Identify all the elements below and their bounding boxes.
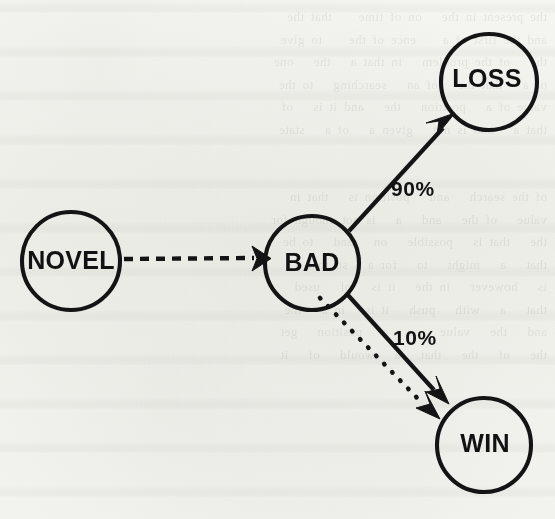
edge-bad-to-win-solid: 10% <box>347 294 449 404</box>
scanned-page: the present in the on of time that the a… <box>0 0 555 519</box>
edge-label-90-percent: 90% <box>391 177 435 200</box>
node-label-bad: BAD <box>284 248 339 276</box>
edge-label-10-percent: 10% <box>393 326 437 349</box>
node-bad[interactable]: BAD <box>265 216 359 310</box>
node-label-novel: NOVEL <box>27 246 115 274</box>
edge-bad-to-loss: 90% <box>349 113 455 231</box>
node-loss[interactable]: LOSS <box>441 34 537 130</box>
edge-line-dashed-novel-bad <box>124 258 254 259</box>
node-win[interactable]: WIN <box>437 398 531 492</box>
state-transition-diagram: 90% 10% NOVEL BAD LOSS WIN <box>0 0 555 519</box>
node-novel[interactable]: NOVEL <box>22 212 120 310</box>
node-label-loss: LOSS <box>452 64 521 92</box>
node-label-win: WIN <box>460 429 510 457</box>
edge-line-dotted-bad-win <box>320 298 424 405</box>
edge-novel-to-bad <box>124 246 271 271</box>
edge-bad-to-win-dotted <box>320 298 440 419</box>
